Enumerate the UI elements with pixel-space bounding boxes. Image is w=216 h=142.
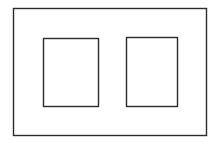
- right-panel: [127, 38, 178, 107]
- left-panel: [44, 39, 99, 107]
- diagram-canvas: [0, 0, 216, 142]
